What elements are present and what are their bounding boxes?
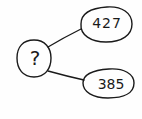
connector-line-bottom	[48, 71, 84, 80]
number-bond-diagram: ? 427 385	[0, 0, 142, 119]
part-value-bottom: 385	[90, 73, 132, 95]
connector-line-top	[48, 29, 81, 47]
part-value-top: 427	[86, 12, 128, 34]
whole-value: ?	[20, 44, 50, 72]
